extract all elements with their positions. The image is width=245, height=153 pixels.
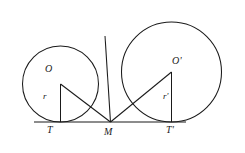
- label-point-M: M: [104, 127, 113, 137]
- label-center-O-prime: O': [172, 56, 182, 66]
- label-radius-r: r: [43, 92, 47, 101]
- label-radius-r-prime: r': [163, 92, 168, 101]
- label-center-O: O: [45, 64, 52, 74]
- segment-OM: [61, 84, 111, 122]
- geometry-canvas: [0, 0, 245, 153]
- segment-MP-common-tangent: [105, 36, 111, 122]
- label-tangent-T: T: [47, 125, 53, 135]
- geometry-figure: O O' r r' T T' M: [0, 0, 245, 153]
- label-tangent-T-prime: T': [166, 125, 174, 135]
